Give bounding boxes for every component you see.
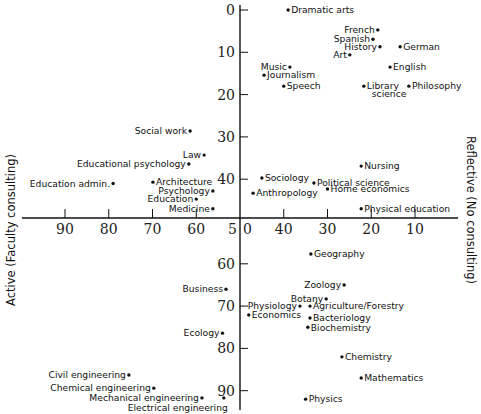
point-marker <box>221 331 224 334</box>
point-label: Journalism <box>266 69 315 80</box>
point-marker <box>262 73 265 76</box>
data-point: Agriculture/Forestry <box>308 300 404 311</box>
y-tick-label: 0 <box>226 2 235 18</box>
x-tick-label: 10 <box>406 221 424 237</box>
x-tick-label: 90 <box>56 221 74 237</box>
data-point: Social work <box>135 125 192 136</box>
x-tick-label: 80 <box>100 221 118 237</box>
y-tick-label: 40 <box>217 171 235 187</box>
data-point: Mathematics <box>359 372 423 383</box>
data-point: Geography <box>309 248 365 259</box>
point-marker <box>340 355 343 358</box>
point-marker <box>312 181 315 184</box>
data-point: Ecology <box>184 327 225 338</box>
point-marker <box>202 153 205 156</box>
point-marker <box>378 45 381 48</box>
point-label: Social work <box>135 125 188 136</box>
point-label: Geography <box>314 248 365 259</box>
x-tick-label: 70 <box>144 221 162 237</box>
point-marker <box>304 397 307 400</box>
data-point: Business <box>182 283 227 294</box>
point-marker <box>282 84 285 87</box>
data-point: Law <box>183 149 206 160</box>
point-marker <box>362 84 365 87</box>
point-marker <box>247 313 250 316</box>
point-marker <box>111 182 114 185</box>
point-label: Physical education <box>364 203 450 214</box>
y-tick-label: 10 <box>217 44 235 60</box>
x-tick-label: 30 <box>319 221 337 237</box>
point-marker <box>348 53 351 56</box>
y-tick-label: 80 <box>217 340 235 356</box>
point-label: Chemistry <box>345 351 393 362</box>
point-marker <box>308 316 311 319</box>
data-point: Nursing <box>359 160 399 171</box>
point-label: Agriculture/Forestry <box>313 300 405 311</box>
point-marker <box>260 176 263 179</box>
data-point: Anthropology <box>251 187 318 198</box>
data-points: Dramatic artsFrenchSpanishHistoryGermanA… <box>30 4 462 413</box>
point-marker <box>187 162 190 165</box>
x-tick-label: 40 <box>275 221 293 237</box>
point-marker <box>359 164 362 167</box>
point-label: Civil engineering <box>48 369 125 380</box>
point-label: Speech <box>287 80 321 91</box>
point-marker <box>188 129 191 132</box>
data-point: Journalism <box>262 69 315 80</box>
point-label: English <box>393 61 426 72</box>
point-marker <box>359 207 362 210</box>
point-marker <box>222 396 225 399</box>
point-marker <box>376 28 379 31</box>
point-label: Educational psychology <box>77 158 186 169</box>
point-label: Biochemistry <box>311 322 372 333</box>
point-label: Home economics <box>331 183 410 194</box>
point-marker <box>326 187 329 190</box>
data-point: German <box>398 41 440 52</box>
data-point: Economics <box>247 309 301 320</box>
point-label: Anthropology <box>256 187 318 198</box>
point-label: Art <box>333 49 347 60</box>
data-point: History <box>344 41 381 52</box>
data-point: Philosophy <box>407 80 462 91</box>
point-marker <box>195 197 198 200</box>
point-label: German <box>403 41 440 52</box>
point-marker <box>211 207 214 210</box>
point-label: Education admin. <box>30 178 110 189</box>
point-marker <box>224 287 227 290</box>
point-marker <box>342 283 345 286</box>
data-point: Education admin. <box>30 178 115 189</box>
data-point: Sociology <box>260 172 309 183</box>
x-tick-label: 20 <box>362 221 380 237</box>
point-marker <box>251 191 254 194</box>
point-label: Electrical engineering <box>128 402 228 413</box>
data-point: Medicine <box>169 203 215 214</box>
data-point: Physics <box>304 393 343 404</box>
y-tick-label-50: 0 <box>243 221 252 237</box>
data-point: Zoology <box>304 279 346 290</box>
x-axis-label-reflective: Reflective (No consulting) <box>464 136 478 284</box>
point-marker <box>398 45 401 48</box>
point-label: Ecology <box>184 327 220 338</box>
x-tick-label-50: 5 <box>228 221 237 237</box>
point-label-line2: science <box>372 88 407 99</box>
x-tick-label: 60 <box>187 221 205 237</box>
x-axis-label-active: Active (Faculty consulting) <box>4 154 18 306</box>
point-marker <box>309 252 312 255</box>
data-point: Libraryscience <box>362 80 407 99</box>
point-label: Philosophy <box>412 80 462 91</box>
point-marker <box>127 373 130 376</box>
data-point: Home economics <box>326 183 410 194</box>
data-point: Speech <box>282 80 321 91</box>
data-point: English <box>388 61 426 72</box>
point-label: Sociology <box>265 172 310 183</box>
point-label: Nursing <box>364 160 399 171</box>
point-marker <box>388 65 391 68</box>
data-point: Educational psychology <box>77 158 191 169</box>
y-tick-label: 60 <box>217 256 235 272</box>
point-marker <box>298 304 301 307</box>
point-marker <box>151 180 154 183</box>
point-label: History <box>344 41 377 52</box>
point-label: Business <box>182 283 223 294</box>
point-marker <box>200 396 203 399</box>
data-point: Physical education <box>359 203 450 214</box>
